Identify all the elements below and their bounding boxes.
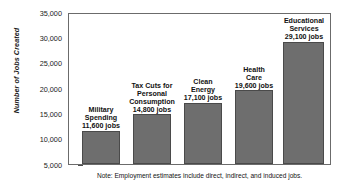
y-tick-label: 15,000 [16, 111, 62, 118]
bar-label-health-care: Health Care 19,600 jobs [220, 66, 288, 90]
y-axis-tick-labels: 35,000 30,000 25,000 20,000 15,000 10,00… [16, 0, 62, 193]
y-tick-label: 5,000 [16, 162, 62, 169]
y-tick-label: 10,000 [16, 136, 62, 143]
bar-label-educational-services: Educational Services 29,100 jobs [269, 17, 339, 41]
bar-tax-cuts[interactable] [133, 114, 171, 164]
chart-footnote: Note: Employment estimates include direc… [68, 172, 331, 179]
bar-educational-services[interactable] [283, 42, 324, 164]
y-tick-mark [78, 165, 83, 166]
plot-area: Military Spending 11,600 jobs Tax Cuts f… [68, 13, 331, 165]
bar-health-care[interactable] [235, 90, 273, 164]
bar-chart-figure: Number of Jobs Created 35,000 30,000 25,… [0, 0, 352, 193]
y-tick-label: 30,000 [16, 35, 62, 42]
y-tick-label: 35,000 [16, 10, 62, 17]
bar-military-spending[interactable] [82, 131, 120, 164]
y-tick-label: 20,000 [16, 86, 62, 93]
plot-inner: Military Spending 11,600 jobs Tax Cuts f… [69, 14, 330, 164]
y-tick-label: 25,000 [16, 60, 62, 67]
